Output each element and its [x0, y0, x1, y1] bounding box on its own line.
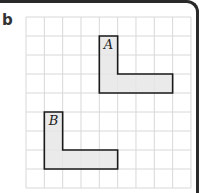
shape-label-b: B — [48, 113, 59, 128]
grid-figure: AB — [0, 0, 202, 193]
shape-label-a: A — [103, 37, 113, 52]
